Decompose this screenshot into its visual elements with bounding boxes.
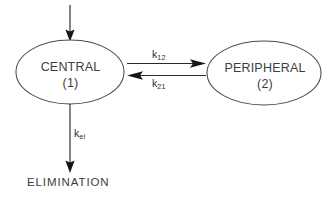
rate-constant-kel-subscript: el <box>79 132 85 141</box>
k12-arrow <box>127 59 206 68</box>
rate-constant-k12: k12 <box>152 49 166 61</box>
compartment-peripheral-number: (2) <box>206 78 324 91</box>
pk-compartment-diagram: CENTRAL (1) PERIPHERAL (2) k12 k21 kel E… <box>0 0 330 199</box>
rate-constant-k12-subscript: 12 <box>157 53 166 62</box>
compartment-peripheral-name: PERIPHERAL <box>206 62 324 75</box>
compartment-central-number: (1) <box>16 77 125 90</box>
elimination-label: ELIMINATION <box>27 176 110 188</box>
rate-constant-k21-subscript: 21 <box>157 82 166 91</box>
input-arrow <box>65 5 74 42</box>
k21-arrow <box>127 71 206 80</box>
compartment-central-name: CENTRAL <box>16 61 125 74</box>
rate-constant-k21: k21 <box>152 78 166 90</box>
rate-constant-kel: kel <box>74 128 85 140</box>
diagram-canvas <box>0 0 330 199</box>
